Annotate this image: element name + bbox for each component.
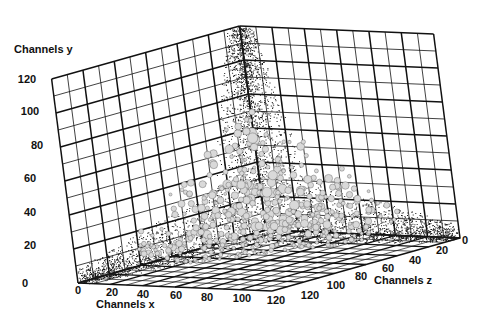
y-tick: 60 [24, 172, 36, 184]
y-tick: 120 [18, 73, 36, 85]
y-tick: 100 [21, 105, 39, 117]
z-tick: 120 [301, 289, 319, 301]
x-tick: 100 [233, 292, 251, 304]
z-tick: 60 [382, 262, 394, 274]
z-tick: 80 [355, 270, 367, 282]
y-tick: 0 [22, 277, 28, 289]
y-tick: 80 [31, 139, 43, 151]
y-tick: 40 [24, 206, 36, 218]
z-tick: 40 [409, 254, 421, 266]
x-tick: 40 [137, 288, 149, 300]
y-axis-label: Channels y [14, 43, 73, 55]
x-tick: 120 [267, 294, 285, 306]
x-tick: 60 [170, 289, 182, 301]
x-tick: 80 [201, 291, 213, 303]
z-tick: 100 [327, 279, 345, 291]
y-tick: 20 [24, 239, 36, 251]
z-tick: 0 [462, 234, 468, 246]
x-tick: 20 [106, 286, 118, 298]
z-tick: 20 [436, 244, 448, 256]
x-tick: 0 [75, 284, 81, 296]
z-axis-label: Channels z [374, 274, 432, 286]
